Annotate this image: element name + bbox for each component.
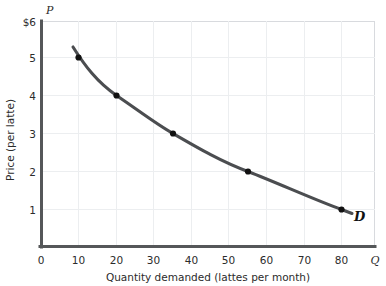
y-tick-label: 2 [29,166,36,178]
curve-label-d: D [353,209,366,224]
y-axis-title: Price (per latte) [4,99,16,181]
x-tick-labels: 0 10 20 30 40 50 60 70 80 [38,254,349,266]
data-point [338,206,344,212]
x-tick-label: 30 [147,254,160,266]
data-point [245,168,251,174]
y-tick-label: 3 [29,128,36,140]
data-point [113,92,119,98]
x-axis-symbol: Q [370,254,379,267]
x-tick-label: 0 [38,254,45,266]
chart-background [0,0,386,286]
data-point [170,130,176,136]
x-tick-label: 80 [335,254,348,266]
chart-canvas: D P $6 5 4 3 2 1 0 10 20 30 40 50 60 70 … [0,0,386,286]
x-tick-label: 20 [110,254,123,266]
data-point [75,54,81,60]
x-tick-label: 40 [185,254,198,266]
x-tick-label: 60 [260,254,273,266]
x-tick-label: 70 [298,254,311,266]
x-tick-label: 50 [222,254,235,266]
x-axis-title: Quantity demanded (lattes per month) [106,271,310,283]
y-tick-label: $6 [23,16,37,28]
y-tick-label: 4 [29,90,36,102]
y-tick-label: 1 [29,204,36,216]
x-tick-label: 10 [72,254,85,266]
y-axis-symbol: P [45,4,54,17]
y-tick-label: 5 [29,52,36,64]
demand-curve-chart: D P $6 5 4 3 2 1 0 10 20 30 40 50 60 70 … [0,0,386,286]
